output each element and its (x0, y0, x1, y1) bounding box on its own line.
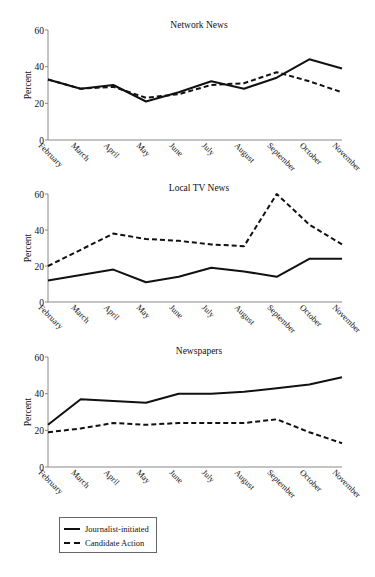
legend-item-journalist: Journalist-initiated (64, 523, 149, 535)
y-axis-label: Percent (23, 397, 33, 426)
x-tick-label: November (331, 302, 364, 335)
x-tick-label: November (331, 467, 364, 500)
y-tick-label: 60 (35, 353, 45, 363)
y-tick-label: 40 (35, 226, 45, 236)
x-tick-label: April (102, 302, 122, 322)
x-tick-label: November (331, 140, 364, 173)
x-tick-label: October (298, 467, 325, 494)
y-tick-label: 40 (35, 62, 45, 72)
legend: Journalist-initiated Candidate Action (59, 517, 157, 553)
series-line-journalist-initiated (48, 259, 342, 282)
chart-panel-network-news: Network News0204060PercentFebruaryMarchA… (23, 20, 363, 173)
x-tick-label: April (102, 467, 122, 487)
x-tick-label: July (200, 467, 218, 485)
x-tick-label: May (135, 140, 154, 159)
y-tick-label: 40 (35, 389, 45, 399)
solid-line-swatch-icon (64, 528, 80, 530)
dashed-line-swatch-icon (64, 542, 80, 544)
x-tick-label: September (265, 140, 298, 173)
chart-panel-local-tv-news: Local TV News0204060PercentFebruaryMarch… (23, 183, 363, 335)
x-tick-label: June (167, 140, 185, 158)
x-tick-label: May (135, 467, 154, 486)
x-tick-label: September (265, 302, 298, 335)
x-tick-label: April (102, 140, 122, 160)
series-line-candidate-action (48, 419, 342, 443)
y-tick-label: 20 (35, 99, 45, 109)
x-tick-label: February (37, 302, 66, 331)
x-tick-label: October (298, 140, 325, 167)
x-tick-label: August (233, 302, 258, 327)
y-axis-label: Percent (23, 70, 33, 99)
x-tick-label: June (167, 302, 185, 320)
y-tick-label: 60 (35, 26, 45, 36)
y-tick-label: 20 (35, 426, 45, 436)
chart-title: Network News (170, 20, 228, 30)
y-axis-label: Percent (23, 233, 33, 262)
x-tick-label: July (200, 302, 218, 320)
chart-title: Newspapers (176, 346, 223, 356)
chart-title: Local TV News (169, 183, 230, 193)
legend-item-candidate: Candidate Action (64, 537, 144, 549)
x-tick-label: August (233, 140, 258, 165)
x-tick-label: September (265, 467, 298, 500)
x-tick-label: May (135, 302, 154, 321)
x-tick-label: February (37, 140, 66, 169)
x-tick-label: March (69, 467, 92, 490)
x-tick-label: March (69, 302, 92, 325)
x-tick-label: February (37, 467, 66, 496)
legend-label: Candidate Action (85, 538, 144, 548)
y-tick-label: 20 (35, 262, 45, 272)
chart-panel-newspapers: Newspapers0204060PercentFebruaryMarchApr… (23, 346, 363, 500)
x-tick-label: March (69, 140, 92, 163)
series-line-journalist-initiated (48, 377, 342, 425)
x-tick-label: July (200, 140, 218, 158)
legend-label: Journalist-initiated (85, 524, 149, 534)
x-tick-label: October (298, 302, 325, 329)
series-line-candidate-action (48, 72, 342, 98)
y-tick-label: 60 (35, 190, 45, 200)
series-line-journalist-initiated (48, 59, 342, 101)
x-tick-label: August (233, 467, 258, 492)
figure: Network News0204060PercentFebruaryMarchA… (0, 0, 375, 577)
x-tick-label: June (167, 467, 185, 485)
series-line-candidate-action (48, 194, 342, 266)
